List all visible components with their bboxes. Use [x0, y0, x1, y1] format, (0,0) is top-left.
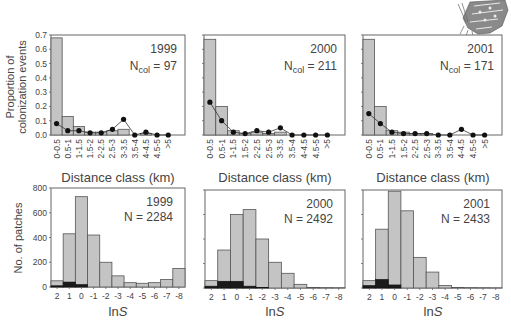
bar-dark [243, 286, 256, 288]
year-label: 2000 [310, 42, 337, 56]
n-col-label: Ncol = 97 [130, 59, 178, 75]
bar [307, 287, 320, 288]
x-tick-label: 0 [79, 291, 84, 301]
x-tick-label: -5 [454, 292, 462, 302]
x-tick-label: 3.5-4 [445, 139, 455, 159]
bar [439, 286, 452, 288]
x-tick-label: 0 [234, 292, 239, 302]
bar [63, 234, 75, 287]
data-point [447, 132, 452, 137]
x-tick-label: -2 [102, 291, 110, 301]
x-tick-label: 2 [367, 292, 372, 302]
top-ylabel-line1: Proportion of [4, 55, 16, 119]
x-tick-label: -1 [246, 292, 254, 302]
bar [161, 280, 173, 287]
y-tick-label: 0.3 [35, 87, 47, 97]
n-label: N = 2284 [124, 210, 173, 224]
x-tick-label: 0-0.5 [364, 139, 374, 159]
x-tick-label: 4-4.5 [456, 139, 466, 159]
x-tick-label: 1.5-2 [240, 139, 250, 159]
x-tick-label: 2 [55, 291, 60, 301]
x-tick-label: 4.5-5 [311, 139, 321, 159]
data-point [401, 131, 406, 136]
data-point [325, 132, 330, 137]
x-tick-label: >5 [480, 139, 490, 149]
x-tick-label: >5 [163, 139, 173, 149]
x-tick-label: 1 [380, 292, 385, 302]
n-col-label: Ncol = 171 [440, 59, 494, 75]
data-point [207, 100, 212, 105]
bar-dark [205, 286, 218, 288]
bar-dark [63, 282, 75, 287]
x-tick-label: -4 [284, 292, 292, 302]
x-tick-label: -6 [309, 292, 317, 302]
bar [148, 283, 160, 287]
x-tick-label: 1.5-2 [85, 139, 95, 159]
x-tick-label: -6 [151, 291, 159, 301]
year-label: 2001 [463, 197, 490, 211]
x-tick-label: -2 [258, 292, 266, 302]
x-tick-label: 0 [392, 292, 397, 302]
data-point [389, 130, 394, 135]
y-tick-label: 0.1 [35, 116, 47, 126]
y-tick-label: 200 [33, 257, 47, 267]
bar-dark [363, 286, 376, 288]
data-point [366, 111, 371, 116]
x-tick-label: -5 [139, 291, 147, 301]
data-point [459, 127, 464, 132]
x-tick-label: -8 [335, 292, 343, 302]
bar [363, 39, 375, 135]
x-tick-label: 3-3.5 [275, 139, 285, 159]
bar [124, 283, 136, 287]
x-tick-label: 0.5-1 [375, 139, 385, 159]
bar-dark [51, 286, 63, 287]
bar-dark [230, 281, 243, 288]
x-tick-label: 1-1.5 [74, 139, 84, 159]
data-point [290, 132, 295, 137]
x-tick-label: 1 [67, 291, 72, 301]
butterfly-icon [458, 0, 508, 37]
x-tick-label: 2 [209, 292, 214, 302]
bar-dark [388, 285, 401, 288]
data-point [87, 130, 92, 135]
x-tick-label: 4.5-5 [152, 139, 162, 159]
bar [294, 284, 307, 288]
year-label: 2001 [467, 42, 494, 56]
bottom-ylabel: No. of patches [12, 202, 24, 273]
chart-panel-patches-1999: 0200400600800210-1-2-3-4-5-6-7-81999N = … [33, 183, 185, 301]
data-point [132, 132, 137, 137]
x-tick-label: -1 [403, 292, 411, 302]
bar [388, 191, 401, 288]
data-point [121, 117, 126, 122]
x-tick-label: 0-0.5 [52, 139, 62, 159]
bar [88, 235, 100, 287]
x-tick-label: 0.5-1 [217, 139, 227, 159]
chart-panel-patches-2000: 210-1-2-3-4-5-6-7-82000N = 2492 [203, 190, 345, 302]
x-tick-label: -7 [479, 292, 487, 302]
data-point [54, 121, 59, 126]
n-col-label: Ncol = 211 [284, 59, 337, 75]
x-tick-label: 2.5-3 [422, 139, 432, 159]
chart-panel-colonization-2000: 0-0.50.5-11-1.51.5-22-2.52.5-33-3.53.5-4… [202, 35, 345, 158]
bar [100, 262, 112, 287]
year-label: 1999 [150, 42, 177, 56]
data-point [313, 132, 318, 137]
bar [401, 211, 414, 288]
y-tick-label: 0.7 [35, 30, 47, 40]
n-label: N = 2492 [284, 212, 333, 226]
data-point [378, 121, 383, 126]
bar [375, 106, 387, 135]
x-tick-label: -6 [467, 292, 475, 302]
x-tick-label: -1 [90, 291, 98, 301]
x-tick-label: -3 [271, 292, 279, 302]
bar [173, 268, 185, 287]
bar [230, 215, 243, 289]
bar [243, 210, 256, 288]
data-point [424, 131, 429, 136]
x-tick-label: -8 [492, 292, 500, 302]
data-point [219, 118, 224, 123]
chart-panel-colonization-2001: 0-0.50.5-11-1.51.5-22-2.52.5-33-3.53.5-4… [361, 35, 502, 158]
x-tick-label: 1-1.5 [387, 139, 397, 159]
top-xlabel-2001: Distance class (km) [376, 170, 489, 185]
bar [414, 257, 427, 288]
